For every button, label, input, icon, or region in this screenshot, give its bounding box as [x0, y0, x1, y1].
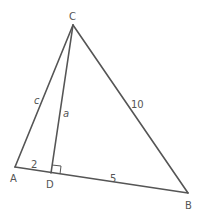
vertex-label-b: B — [185, 200, 192, 211]
vertex-label-a: A — [10, 173, 17, 184]
segment-label-bc: 10 — [131, 99, 144, 110]
segment-label-db: 5 — [110, 173, 116, 184]
vertex-label-d: D — [46, 179, 54, 190]
segment-label-ac: c — [34, 95, 40, 106]
side-ac — [15, 25, 73, 167]
triangle-diagram: C A D B c a 10 2 5 — [0, 0, 204, 217]
altitude-cd — [51, 25, 73, 173]
segment-label-ad: 2 — [31, 159, 37, 170]
segment-label-cd: a — [63, 108, 69, 119]
vertex-label-c: C — [69, 11, 76, 22]
side-ab — [15, 167, 188, 193]
